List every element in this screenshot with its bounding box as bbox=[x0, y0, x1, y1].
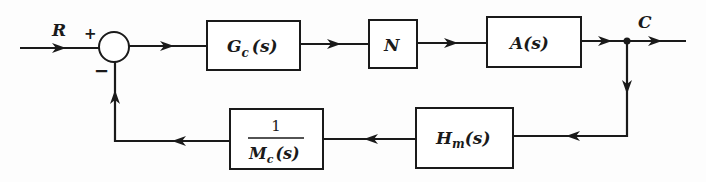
output-label-c: C bbox=[638, 12, 652, 32]
minus-sign: − bbox=[94, 60, 109, 81]
block-mc-numerator: 1 bbox=[271, 117, 281, 135]
input-label-r: R bbox=[51, 20, 66, 40]
plus-sign: + bbox=[84, 25, 97, 43]
summing-junction bbox=[99, 32, 129, 62]
block-diagram: R + − Gc(s) N A(s) C Hm(s) 1 Mc(s) bbox=[0, 0, 706, 182]
block-a-label: A(s) bbox=[508, 33, 549, 53]
feedback-wire-left bbox=[115, 62, 230, 141]
diagram-svg: R + − Gc(s) N A(s) C Hm(s) 1 Mc(s) bbox=[0, 0, 706, 182]
block-n-label: N bbox=[383, 35, 401, 55]
